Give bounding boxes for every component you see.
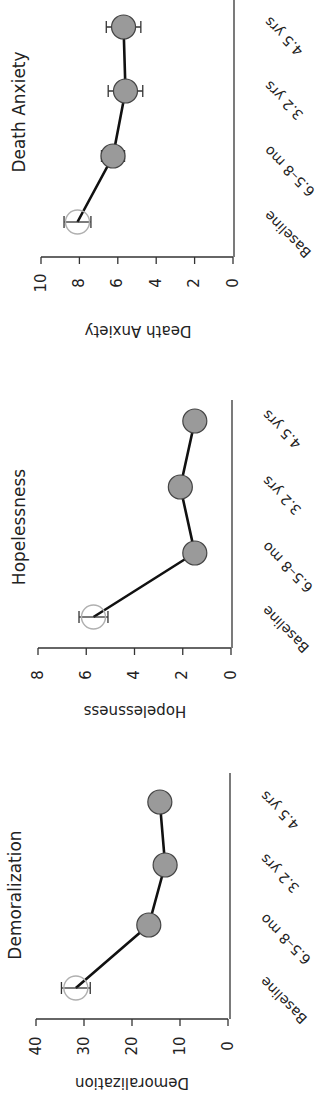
value-tick-label: 8 — [70, 278, 88, 288]
value-tick-label: 30 — [75, 1036, 93, 1055]
value-tick-label: 40 — [27, 1036, 45, 1055]
value-tick-label: 0 — [219, 1041, 237, 1051]
filled-marker-4-5-yrs — [183, 409, 207, 433]
panel-demoralization: 010203040Baseline6.5–8 mo3.2 yrs4.5 yrsD… — [5, 773, 314, 1092]
value-tick-label: 2 — [173, 670, 191, 680]
filled-marker-4-5-yrs — [112, 15, 136, 39]
value-tick-label: 0 — [222, 670, 240, 680]
panel-death-anxiety: 0246810Baseline6.5–8 mo3.2 yrs4.5 yrsDea… — [9, 0, 318, 340]
filled-marker-6-5-8-mo — [183, 541, 207, 565]
time-label-6-5-8-mo: 6.5–8 mo — [261, 143, 318, 200]
panel-hopelessness: 02468Baseline6.5–8 mo3.2 yrs4.5 yrsHopel… — [9, 400, 316, 720]
time-label-3-2-yrs: 3.2 yrs — [261, 78, 306, 123]
value-tick-label: 10 — [32, 273, 50, 292]
value-axis-title: Hopelessness — [84, 702, 187, 720]
figure: 0246810Baseline6.5–8 mo3.2 yrs4.5 yrsDea… — [0, 0, 327, 1102]
time-label-baseline: Baseline — [261, 208, 314, 261]
time-label-4-5-yrs: 4.5 yrs — [257, 788, 302, 833]
data-line — [76, 802, 165, 988]
filled-marker-6-5-8-mo — [137, 913, 161, 937]
value-tick-label: 8 — [29, 670, 47, 680]
panel-title: Demoralization — [5, 830, 25, 959]
value-tick-label: 4 — [147, 278, 165, 288]
value-tick-label: 6 — [77, 670, 95, 680]
value-tick-label: 6 — [108, 278, 126, 288]
value-axis-title: Death Anxiety — [84, 322, 191, 340]
value-tick-label: 2 — [185, 278, 203, 288]
value-tick-label: 20 — [123, 1036, 141, 1055]
filled-marker-3-2-yrs — [153, 853, 177, 877]
time-label-6-5-8-mo: 6.5–8 mo — [259, 539, 316, 596]
value-tick-label: 10 — [171, 1036, 189, 1055]
data-line — [93, 421, 194, 617]
panel-title: Hopelessness — [9, 469, 29, 585]
time-label-6-5-8-mo: 6.5–8 mo — [257, 911, 314, 968]
value-tick-label: 0 — [224, 278, 242, 288]
filled-marker-3-2-yrs — [168, 475, 192, 499]
panel-title: Death Anxiety — [9, 51, 29, 172]
value-axis-title: Demoralization — [75, 1074, 189, 1092]
filled-marker-6-5-8-mo — [101, 144, 125, 168]
time-label-3-2-yrs: 3.2 yrs — [259, 473, 304, 518]
filled-marker-3-2-yrs — [113, 79, 137, 103]
time-label-3-2-yrs: 3.2 yrs — [257, 851, 302, 896]
time-label-baseline: Baseline — [259, 603, 312, 656]
time-label-baseline: Baseline — [257, 974, 310, 1027]
filled-marker-4-5-yrs — [148, 790, 172, 814]
data-line — [77, 27, 125, 222]
time-label-4-5-yrs: 4.5 yrs — [261, 14, 306, 59]
time-label-4-5-yrs: 4.5 yrs — [259, 407, 304, 452]
value-tick-label: 4 — [125, 670, 143, 680]
